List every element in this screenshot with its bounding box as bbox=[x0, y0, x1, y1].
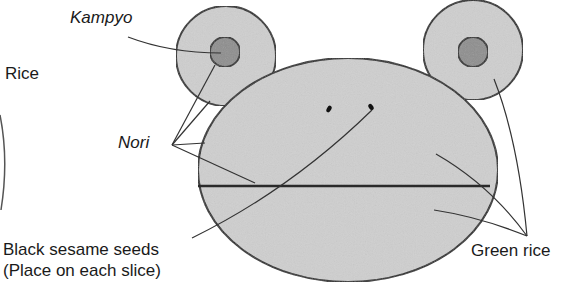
green-rice-leader-3 bbox=[494, 79, 527, 236]
nori-label: Nori bbox=[118, 133, 149, 152]
right-kampyo bbox=[458, 37, 488, 67]
kampyo-label: Kampyo bbox=[70, 8, 132, 27]
green-rice-label: Green rice bbox=[471, 241, 550, 260]
nori-leader-3 bbox=[172, 143, 205, 145]
face bbox=[198, 58, 498, 282]
sesame-label-line1: Black sesame seeds bbox=[3, 240, 159, 259]
left-kampyo bbox=[210, 37, 240, 67]
sesame-label-line2: (Place on each slice) bbox=[3, 261, 161, 280]
rice-arc bbox=[0, 115, 5, 210]
rice-label: Rice bbox=[5, 64, 39, 83]
